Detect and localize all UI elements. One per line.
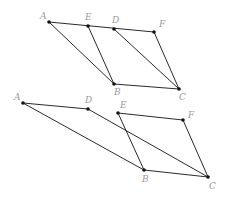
label-C: C (179, 92, 186, 102)
point-D (86, 107, 90, 111)
label-A: A (39, 11, 47, 21)
figure-top: AEDFBC (39, 11, 186, 102)
segment-EF (118, 113, 183, 120)
segment-AB (49, 22, 114, 84)
segment-AB (23, 103, 144, 170)
point-A (47, 20, 51, 24)
figure-bottom: ADEFBC (13, 92, 216, 191)
parallelogram-diagram: AEDFBC ADEFBC (0, 0, 226, 201)
label-E: E (119, 100, 127, 110)
segment-DC (114, 29, 179, 89)
point-F (181, 118, 185, 122)
label-F: F (158, 19, 166, 29)
point-B (112, 82, 116, 86)
segment-AF (49, 22, 154, 32)
point-B (142, 168, 146, 172)
label-B: B (141, 174, 149, 184)
point-A (21, 101, 25, 105)
label-C: C (209, 181, 216, 191)
segment-BC (114, 84, 179, 89)
point-C (206, 175, 210, 179)
label-D: D (84, 95, 92, 105)
segment-EB (118, 113, 144, 170)
point-C (177, 87, 181, 91)
point-E (86, 24, 90, 28)
point-F (152, 30, 156, 34)
label-D: D (111, 15, 119, 25)
label-E: E (84, 12, 92, 22)
label-F: F (187, 110, 195, 120)
segment-EB (88, 26, 114, 84)
label-B: B (113, 87, 121, 97)
point-D (112, 27, 116, 31)
label-A: A (13, 92, 21, 102)
point-E (116, 111, 120, 115)
segment-FC (154, 32, 179, 89)
segment-FC (183, 120, 208, 177)
